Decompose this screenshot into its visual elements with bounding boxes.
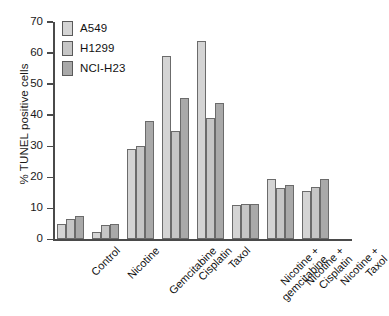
x-tick-label: Control	[89, 245, 122, 278]
x-tick-label: Nicotine	[125, 245, 161, 281]
